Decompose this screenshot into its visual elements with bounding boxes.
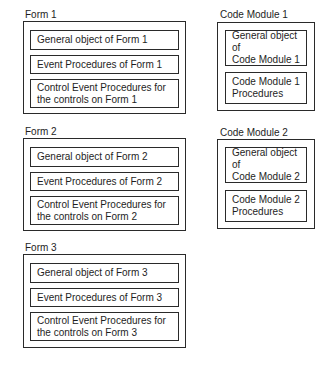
- form-2-container: General object of Form 2 Event Procedure…: [23, 138, 186, 231]
- code-module-2-general-object-label: General object of Code Module 2: [232, 147, 306, 183]
- code-module-2-procedures-label: Code Module 2 Procedures: [232, 194, 300, 218]
- form-1-title: Form 1: [25, 9, 57, 20]
- form-1-control-event-procedures-label: Control Event Procedures for the control…: [37, 82, 166, 106]
- code-module-2-title: Code Module 2: [220, 127, 288, 138]
- form-2-general-object-label: General object of Form 2: [37, 151, 148, 163]
- form-3-event-procedures-label: Event Procedures of Form 3: [37, 292, 162, 304]
- code-module-1-title: Code Module 1: [220, 9, 288, 20]
- form-2-control-event-procedures: Control Event Procedures for the control…: [30, 196, 179, 225]
- code-module-1-general-object: General object of Code Module 1: [225, 30, 307, 66]
- code-module-2-general-object: General object of Code Module 2: [225, 147, 307, 183]
- form-1-container: General object of Form 1 Event Procedure…: [23, 21, 186, 114]
- form-2-event-procedures: Event Procedures of Form 2: [30, 172, 179, 191]
- form-1-general-object-label: General object of Form 1: [37, 34, 148, 46]
- code-module-1-container: General object of Code Module 1 Code Mod…: [217, 22, 315, 111]
- form-3-container: General object of Form 3 Event Procedure…: [23, 254, 186, 348]
- form-3-general-object: General object of Form 3: [30, 263, 179, 283]
- form-2-control-event-procedures-label: Control Event Procedures for the control…: [37, 199, 166, 223]
- form-3-control-event-procedures-label: Control Event Procedures for the control…: [37, 315, 166, 339]
- form-1-event-procedures: Event Procedures of Form 1: [30, 55, 179, 74]
- form-1-general-object: General object of Form 1: [30, 30, 179, 50]
- form-2-event-procedures-label: Event Procedures of Form 2: [37, 176, 162, 188]
- form-3-title: Form 3: [25, 242, 57, 253]
- form-1-event-procedures-label: Event Procedures of Form 1: [37, 59, 162, 71]
- form-2-general-object: General object of Form 2: [30, 147, 179, 167]
- form-1-control-event-procedures: Control Event Procedures for the control…: [30, 79, 179, 108]
- code-module-1-procedures-label: Code Module 1 Procedures: [232, 76, 300, 100]
- form-2-title: Form 2: [25, 126, 57, 137]
- code-module-1-general-object-label: General object of Code Module 1: [232, 30, 306, 66]
- code-module-2-procedures: Code Module 2 Procedures: [225, 190, 307, 222]
- code-module-1-procedures: Code Module 1 Procedures: [225, 72, 307, 104]
- form-3-general-object-label: General object of Form 3: [37, 267, 148, 279]
- code-module-2-container: General object of Code Module 2 Code Mod…: [217, 139, 315, 229]
- form-3-control-event-procedures: Control Event Procedures for the control…: [30, 312, 179, 341]
- form-3-event-procedures: Event Procedures of Form 3: [30, 288, 179, 307]
